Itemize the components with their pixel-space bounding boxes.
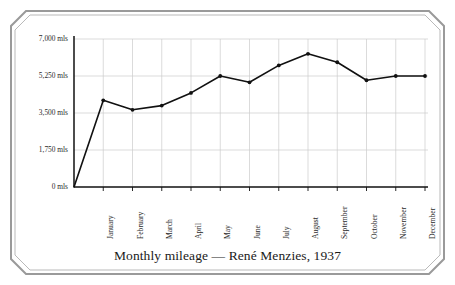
x-axis-tick-label: April [194, 223, 203, 239]
y-axis-tick-label: 0 mls [0, 182, 68, 191]
x-axis-tick-label: October [370, 215, 379, 239]
x-axis-tick-label: September [340, 207, 349, 239]
x-axis-tick-label: March [165, 219, 174, 239]
x-axis-tick-label: July [282, 226, 291, 239]
x-axis-tick-label: June [253, 225, 262, 239]
x-axis-tick-label: August [311, 217, 320, 239]
x-axis-tick-label: January [106, 215, 115, 239]
chart-card: 0 mls1,750 mls3,500 mls5,250 mls7,000 ml… [0, 0, 455, 285]
y-axis-tick-label: 7,000 mls [0, 34, 68, 43]
y-axis-tick-label: 3,500 mls [0, 108, 68, 117]
chart-title: Monthly mileage — René Menzies, 1937 [0, 248, 455, 264]
x-axis-tick-label: November [399, 207, 408, 239]
y-axis-tick-label: 1,750 mls [0, 145, 68, 154]
x-axis-tick-label: February [136, 212, 145, 239]
x-axis-tick-label: December [428, 208, 437, 239]
mileage-data-markers [101, 52, 427, 112]
x-axis-tick-label: May [223, 225, 232, 239]
horizontal-gridlines [74, 39, 428, 150]
chart-axes [74, 36, 428, 187]
line-chart-plot [0, 0, 455, 285]
y-axis-tick-label: 5,250 mls [0, 71, 68, 80]
